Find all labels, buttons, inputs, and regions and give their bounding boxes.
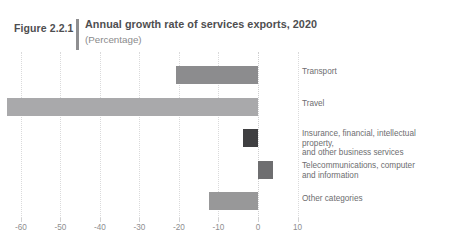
x-tick--10 — [218, 218, 219, 222]
figure-root: Figure 2.2.1 Annual growth rate of servi… — [0, 0, 449, 239]
x-tick-10 — [298, 218, 299, 222]
x-tick-label--60: -60 — [6, 223, 36, 232]
x-tick--60 — [21, 218, 22, 222]
x-tick-label-0: 0 — [243, 223, 273, 232]
x-tick--30 — [139, 218, 140, 222]
category-label-3-line-0: Telecommunications, computer — [302, 161, 447, 171]
x-tick-0 — [258, 218, 259, 222]
category-label-2-line-1: and other business services — [302, 148, 447, 158]
x-tick-label--10: -10 — [203, 223, 233, 232]
category-label-3: Telecommunications, computerand informat… — [302, 161, 447, 180]
x-tick-label--30: -30 — [124, 223, 154, 232]
plot-area — [0, 52, 300, 218]
gridline--40 — [100, 52, 101, 218]
bar-1 — [7, 98, 258, 116]
bar-3 — [258, 161, 273, 179]
bar-4 — [209, 192, 258, 210]
category-label-3-line-1: and information — [302, 171, 447, 181]
gridline--60 — [21, 52, 22, 218]
bar-0 — [176, 66, 258, 84]
bar-chart: -60-50-40-30-20-10010 TransportTravelIns… — [0, 0, 449, 239]
bar-2 — [243, 129, 258, 147]
category-label-0: Transport — [302, 67, 447, 77]
gridline--50 — [60, 52, 61, 218]
category-label-2: Insurance, financial, intellectual prope… — [302, 129, 447, 158]
category-label-0-line-0: Transport — [302, 67, 447, 77]
category-label-2-line-0: Insurance, financial, intellectual prope… — [302, 129, 447, 148]
zero-gridline — [258, 52, 259, 218]
category-label-1-line-0: Travel — [302, 99, 447, 109]
x-tick-label--20: -20 — [164, 223, 194, 232]
x-tick-label-10: 10 — [283, 223, 313, 232]
x-tick-label--40: -40 — [85, 223, 115, 232]
x-tick--20 — [179, 218, 180, 222]
x-tick--50 — [60, 218, 61, 222]
gridline-10 — [298, 52, 299, 218]
gridline--30 — [139, 52, 140, 218]
category-label-4: Other categories — [302, 194, 447, 204]
x-tick-label--50: -50 — [45, 223, 75, 232]
category-label-1: Travel — [302, 99, 447, 109]
category-label-4-line-0: Other categories — [302, 194, 447, 204]
x-tick--40 — [100, 218, 101, 222]
